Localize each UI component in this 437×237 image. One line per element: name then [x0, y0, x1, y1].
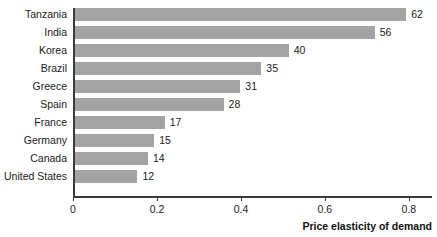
x-axis-tick-label: 0.4: [234, 203, 249, 215]
bar-value-label: 15: [159, 134, 171, 147]
category-label: Tanzania: [0, 8, 70, 21]
x-axis-tick-label: 0.2: [150, 203, 165, 215]
bar-series: 62564035312817151412: [75, 8, 433, 188]
bar: [75, 8, 407, 21]
category-label: Korea: [0, 44, 70, 57]
bar-value-label: 31: [245, 80, 257, 93]
bar: [75, 134, 155, 147]
bar: [75, 152, 148, 165]
category-label: Germany: [0, 134, 70, 147]
bar-value-label: 17: [170, 116, 182, 129]
bar-chart: TanzaniaIndiaKoreaBrazilGreeceSpainFranc…: [0, 0, 437, 237]
x-axis-tick: [73, 196, 74, 201]
bar-value-label: 28: [229, 98, 241, 111]
category-label: Canada: [0, 152, 70, 165]
bar: [75, 116, 165, 129]
category-label: Brazil: [0, 62, 70, 75]
x-axis-line: [73, 196, 432, 198]
bar: [75, 26, 375, 39]
bar: [75, 62, 262, 75]
bar-row: 31: [75, 80, 433, 93]
bar-value-label: 14: [153, 152, 165, 165]
x-axis-title: Price elasticity of demand: [302, 220, 432, 232]
x-axis-tick: [157, 196, 158, 201]
bar-row: 12: [75, 170, 433, 183]
bar-row: 56: [75, 26, 433, 39]
x-axis-tick: [409, 196, 410, 201]
bar-value-label: 56: [380, 26, 392, 39]
bar: [75, 44, 289, 57]
bar-value-label: 40: [294, 44, 306, 57]
category-axis-labels: TanzaniaIndiaKoreaBrazilGreeceSpainFranc…: [0, 8, 70, 188]
x-axis-tick: [241, 196, 242, 201]
bar-row: 40: [75, 44, 433, 57]
plot-area: 62564035312817151412: [73, 8, 432, 196]
bar-row: 15: [75, 134, 433, 147]
category-label: India: [0, 26, 70, 39]
x-axis-tick-label: 0.8: [402, 203, 417, 215]
x-axis-tick: [325, 196, 326, 201]
category-label: France: [0, 116, 70, 129]
x-axis-tick-label: 0: [70, 203, 76, 215]
bar-value-label: 35: [266, 62, 278, 75]
category-label: United States: [0, 170, 70, 183]
category-label: Greece: [0, 80, 70, 93]
bar: [75, 98, 224, 111]
bar-value-label: 12: [142, 170, 154, 183]
bar-row: 62: [75, 8, 433, 21]
x-axis-tick-label: 0.6: [318, 203, 333, 215]
category-label: Spain: [0, 98, 70, 111]
bar-row: 14: [75, 152, 433, 165]
bar: [75, 170, 138, 183]
bar-row: 17: [75, 116, 433, 129]
bar-value-label: 62: [411, 8, 423, 21]
bar-row: 35: [75, 62, 433, 75]
bar-row: 28: [75, 98, 433, 111]
bar: [75, 80, 241, 93]
